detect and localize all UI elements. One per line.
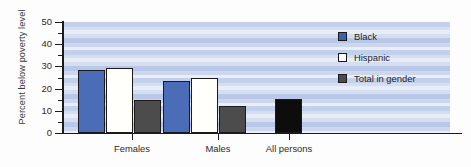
y-axis-label: 20 bbox=[12, 84, 52, 93]
y-axis-label: 0 bbox=[12, 128, 52, 137]
y-axis-tick-minor bbox=[58, 55, 63, 56]
y-axis-tick-major bbox=[55, 89, 63, 90]
bar bbox=[134, 100, 161, 133]
y-axis-tick-minor bbox=[58, 122, 63, 123]
bar bbox=[275, 99, 302, 133]
legend-label: Black bbox=[354, 31, 377, 42]
legend-item: Black bbox=[338, 26, 416, 47]
y-axis-label: 30 bbox=[12, 61, 52, 70]
bar bbox=[191, 78, 218, 134]
y-axis-tick-minor bbox=[58, 33, 63, 34]
legend-item: Hispanic bbox=[338, 47, 416, 68]
x-axis-label: All persons bbox=[266, 143, 312, 154]
y-axis-tick-major bbox=[55, 44, 63, 45]
x-axis-tick bbox=[289, 134, 290, 140]
x-axis-tick bbox=[218, 134, 219, 140]
bar bbox=[219, 106, 246, 133]
y-axis-tick-major bbox=[55, 111, 63, 112]
y-axis-tick-major bbox=[55, 66, 63, 67]
legend-label: Hispanic bbox=[354, 52, 390, 63]
legend-label: Total in gender bbox=[354, 73, 416, 84]
legend-swatch-icon bbox=[338, 74, 347, 83]
legend-item: Total in gender bbox=[338, 68, 416, 89]
legend-swatch-icon bbox=[338, 32, 347, 41]
poverty-level-bar-chart: Percent below poverty level 01020304050 … bbox=[0, 0, 471, 167]
y-axis-label: 10 bbox=[12, 106, 52, 115]
x-axis-label: Females bbox=[114, 143, 150, 154]
bar bbox=[163, 81, 190, 133]
y-axis-label: 50 bbox=[12, 17, 52, 26]
bar bbox=[78, 70, 105, 133]
x-axis-label: Males bbox=[205, 143, 230, 154]
y-axis-label: 40 bbox=[12, 39, 52, 48]
y-axis-tick-major bbox=[55, 22, 63, 23]
bar bbox=[106, 68, 133, 133]
chart-legend: BlackHispanicTotal in gender bbox=[338, 26, 416, 89]
y-axis-tick-minor bbox=[58, 100, 63, 101]
legend-swatch-icon bbox=[338, 53, 347, 62]
x-axis-tick bbox=[132, 134, 133, 140]
y-axis-tick-minor bbox=[58, 78, 63, 79]
y-axis-tick-major bbox=[55, 133, 63, 134]
